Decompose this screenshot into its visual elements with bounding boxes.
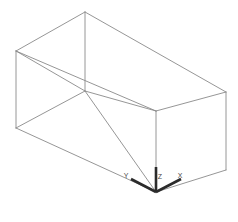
3d-model-viewport[interactable]: ZYX bbox=[0, 0, 238, 222]
model-edge-top-inner-left bbox=[16, 51, 85, 91]
axis-label-x: X bbox=[178, 172, 183, 179]
cuboid-wireframe bbox=[16, 12, 226, 192]
axis-label-y: Y bbox=[124, 172, 129, 179]
model-edge-top-back-right bbox=[85, 12, 226, 92]
model-edge-top-front-left bbox=[16, 51, 156, 111]
model-edge-top-inner-right bbox=[85, 91, 156, 111]
model-edge-top-back-left bbox=[16, 12, 85, 51]
model-edge-bottom-back-left bbox=[16, 91, 85, 128]
model-edge-top-front-right bbox=[156, 92, 226, 111]
model-edge-bottom-front-right bbox=[156, 170, 226, 192]
axis-label-z: Z bbox=[158, 173, 163, 180]
axis-arm-y bbox=[131, 179, 156, 192]
axis-triad-arms bbox=[131, 167, 181, 192]
wireframe-canvas: ZYX bbox=[0, 0, 238, 222]
